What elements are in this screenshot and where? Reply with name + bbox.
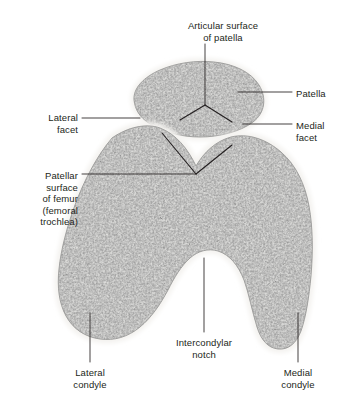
anatomical-figure: Articular surface of patella Patella Med… (0, 0, 344, 413)
label-medial-facet: Medial facet (296, 120, 344, 143)
label-articular-surface-of-patella: Articular surface of patella (168, 20, 278, 43)
label-patella: Patella (296, 88, 344, 100)
femur-groove-lateral-mark (162, 133, 196, 174)
patella-ridge-medial-mark (205, 105, 232, 122)
patella-ridge-vertex-mark (180, 105, 205, 120)
femur-groove-medial-mark (196, 145, 232, 174)
label-lateral-facet: Lateral facet (18, 112, 78, 135)
label-medial-condyle: Medial condyle (262, 367, 334, 390)
label-intercondylar-notch: Intercondylar notch (155, 337, 253, 360)
label-lateral-condyle: Lateral condyle (54, 367, 126, 390)
label-patellar-surface-of-femur: Patellar surface of femur (femoral troch… (8, 170, 78, 228)
